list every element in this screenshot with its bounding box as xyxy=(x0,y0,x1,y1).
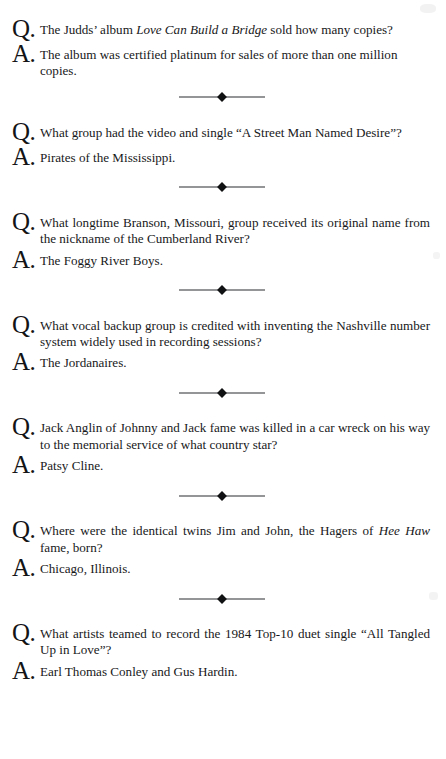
divider-rule xyxy=(179,182,265,193)
diamond-rule-ornament-icon xyxy=(12,181,432,194)
diamond-rule-ornament-icon xyxy=(12,284,432,297)
divider-rule xyxy=(179,490,265,501)
answer-text: Patsy Cline. xyxy=(40,458,432,474)
answer-text: The Jordanaires. xyxy=(40,355,432,371)
qa-block: Q.What group had the video and single “A… xyxy=(12,125,432,170)
answer-marker: A. xyxy=(12,558,40,578)
answer-row: A.Earl Thomas Conley and Gus Hardin. xyxy=(12,664,432,684)
answer-marker: A. xyxy=(12,44,40,64)
divider-rule xyxy=(179,387,265,398)
block-gap xyxy=(12,617,432,626)
answer-text: Chicago, Illinois. xyxy=(40,561,432,577)
divider-rule xyxy=(179,593,265,604)
answer-text: Pirates of the Mississippi. xyxy=(40,150,432,166)
answer-row: A.Patsy Cline. xyxy=(12,458,432,478)
question-row: Q.What artists teamed to record the 1984… xyxy=(12,626,432,659)
qa-block: Q.Jack Anglin of Johnny and Jack fame wa… xyxy=(12,420,432,478)
question-text: What group had the video and single “A S… xyxy=(40,125,432,141)
answer-marker: A. xyxy=(12,147,40,167)
question-marker: Q. xyxy=(12,417,40,437)
qa-block: Q.What artists teamed to record the 1984… xyxy=(12,626,432,684)
question-text: What longtime Branson, Missouri, group r… xyxy=(40,215,432,248)
block-gap xyxy=(12,116,432,125)
question-row: Q.What vocal backup group is credited wi… xyxy=(12,318,432,351)
question-row: Q.Jack Anglin of Johnny and Jack fame wa… xyxy=(12,420,432,453)
answer-row: A.The Jordanaires. xyxy=(12,355,432,375)
question-marker: Q. xyxy=(12,315,40,335)
question-row: Q.What longtime Branson, Missouri, group… xyxy=(12,215,432,248)
answer-marker: A. xyxy=(12,455,40,475)
diamond-rule-ornament-icon xyxy=(12,592,432,605)
answer-row: A.The album was certified platinum for s… xyxy=(12,47,432,80)
document-page: Q.The Judds’ album Love Can Build a Brid… xyxy=(0,0,446,759)
answer-row: A.Chicago, Illinois. xyxy=(12,561,432,581)
answer-marker: A. xyxy=(12,661,40,681)
qa-block: Q.Where were the identical twins Jim and… xyxy=(12,523,432,581)
question-marker: Q. xyxy=(12,623,40,643)
answer-text: The Foggy River Boys. xyxy=(40,253,432,269)
question-text: What vocal backup group is credited with… xyxy=(40,318,432,351)
qa-block: Q.What longtime Branson, Missouri, group… xyxy=(12,215,432,273)
question-text: The Judds’ album Love Can Build a Bridge… xyxy=(40,22,432,38)
answer-marker: A. xyxy=(12,352,40,372)
answer-text: Earl Thomas Conley and Gus Hardin. xyxy=(40,664,432,680)
answer-row: A.Pirates of the Mississippi. xyxy=(12,150,432,170)
question-text: Where were the identical twins Jim and J… xyxy=(40,523,432,556)
divider-rule xyxy=(179,92,265,103)
qa-block: Q.The Judds’ album Love Can Build a Brid… xyxy=(12,22,432,80)
question-row: Q.Where were the identical twins Jim and… xyxy=(12,523,432,556)
question-text: Jack Anglin of Johnny and Jack fame was … xyxy=(40,420,432,453)
question-marker: Q. xyxy=(12,19,40,39)
question-row: Q.The Judds’ album Love Can Build a Brid… xyxy=(12,22,432,42)
question-marker: Q. xyxy=(12,212,40,232)
diamond-rule-ornament-icon xyxy=(12,386,432,399)
question-marker: Q. xyxy=(12,122,40,142)
qa-block: Q.What vocal backup group is credited wi… xyxy=(12,318,432,376)
block-gap xyxy=(12,514,432,523)
block-gap xyxy=(12,309,432,318)
diamond-rule-ornament-icon xyxy=(12,91,432,104)
divider-rule xyxy=(179,285,265,296)
block-gap xyxy=(12,206,432,215)
diamond-rule-ornament-icon xyxy=(12,489,432,502)
block-gap xyxy=(12,411,432,420)
question-marker: Q. xyxy=(12,520,40,540)
answer-text: The album was certified platinum for sal… xyxy=(40,47,432,80)
answer-row: A.The Foggy River Boys. xyxy=(12,253,432,273)
answer-marker: A. xyxy=(12,250,40,270)
question-text: What artists teamed to record the 1984 T… xyxy=(40,626,432,659)
question-row: Q.What group had the video and single “A… xyxy=(12,125,432,145)
